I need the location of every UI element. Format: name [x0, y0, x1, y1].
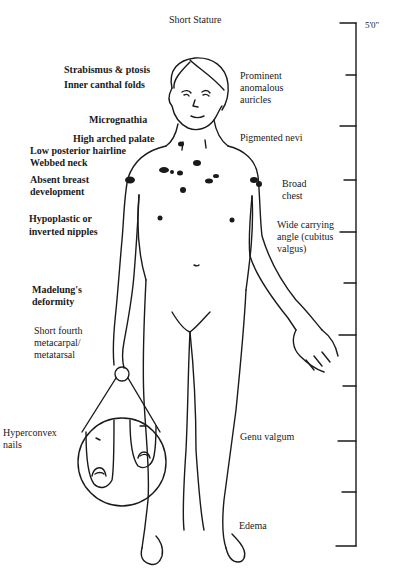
- label-anomalous: anomalous: [240, 82, 283, 94]
- body-outline: [113, 146, 338, 565]
- label-metatarsal: metatarsal: [34, 349, 75, 361]
- height-ruler: [336, 23, 356, 546]
- label-genu-valgum: Genu valgum: [240, 431, 294, 443]
- label-valgus: valgus): [277, 243, 306, 255]
- label-chest: chest: [282, 190, 303, 202]
- label-angle-cubitus: angle (cubitus: [277, 231, 333, 243]
- label-hyperconvex: Hyperconvex: [3, 427, 57, 439]
- head: [166, 58, 228, 150]
- label-micrognathia: Micrognathia: [89, 114, 147, 126]
- ruler-top-label: 5'0": [365, 19, 379, 31]
- label-hypoplastic: Hypoplastic or: [29, 213, 92, 225]
- label-edema: Edema: [239, 520, 267, 532]
- nail-inset-circle: [78, 367, 166, 506]
- label-deformity: deformity: [32, 296, 74, 308]
- label-short-fourth: Short fourth: [34, 325, 83, 337]
- label-low-posterior-hairline: Low posterior hairline: [30, 145, 126, 157]
- label-broad: Broad: [282, 178, 306, 190]
- label-webbed-neck: Webbed neck: [30, 157, 88, 169]
- label-absent-breast: Absent breast: [30, 174, 89, 186]
- label-auricles: auricles: [240, 94, 271, 106]
- label-development: development: [30, 186, 84, 198]
- label-wide-carrying: Wide carrying: [277, 219, 334, 231]
- label-strabismus-ptosis: Strabismus & ptosis: [64, 64, 150, 76]
- label-high-arched-palate: High arched palate: [73, 133, 154, 145]
- label-inner-canthal-folds: Inner canthal folds: [64, 79, 145, 91]
- label-inverted-nipples: inverted nipples: [29, 226, 98, 238]
- title-short-stature: Short Stature: [169, 14, 222, 26]
- label-metacarpal: metacarpal/: [34, 337, 81, 349]
- label-madelungs: Madelung's: [32, 284, 82, 296]
- label-nails: nails: [3, 439, 22, 451]
- label-pigmented-nevi: Pigmented nevi: [240, 132, 303, 144]
- label-prominent: Prominent: [240, 70, 282, 82]
